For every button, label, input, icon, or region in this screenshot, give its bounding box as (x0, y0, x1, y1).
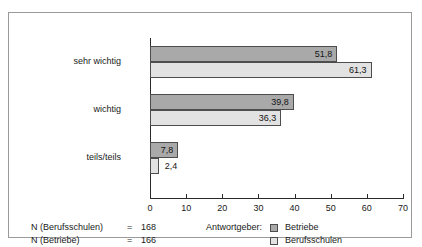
x-axis-tick-label: 40 (290, 203, 300, 213)
legend-title: Antwortgeber: (206, 221, 262, 234)
bar-value-label: 7,8 (161, 146, 178, 155)
note-equals: = (127, 221, 141, 234)
x-axis-tick (258, 194, 259, 199)
x-axis-tick (331, 194, 332, 199)
bar-berufsschulen-0: 61,3 (150, 62, 372, 78)
figure-frame: 010203040506070 sehr wichtigwichtigteils… (8, 12, 412, 238)
legend-item-berufsschulen[interactable]: Berufsschulen (270, 234, 342, 247)
note-value: 168 (141, 221, 156, 234)
note-value: 166 (141, 234, 156, 247)
x-axis-tick-label: 70 (398, 203, 408, 213)
x-axis-tick-label: 30 (253, 203, 263, 213)
x-axis-tick-label: 10 (181, 203, 191, 213)
bar-betriebe-1: 39,8 (150, 94, 294, 110)
bar-berufsschulen-2: 2,4 (150, 158, 159, 174)
sample-size-note-row: N (Berufsschulen)=168 (31, 221, 156, 234)
legend-item-label: Berufsschulen (285, 234, 342, 247)
bar-value-label: 51,8 (315, 50, 337, 59)
legend-items: BetriebeBerufsschulen (270, 221, 342, 247)
bar-betriebe-2: 7,8 (150, 142, 178, 158)
note-key: N (Betriebe) (31, 234, 127, 247)
x-axis-tick (150, 194, 151, 199)
category-label-2: teils/teils (86, 152, 121, 162)
x-axis-tick-label: 50 (326, 203, 336, 213)
x-axis-tick-label: 60 (362, 203, 372, 213)
x-axis-tick (295, 194, 296, 199)
bar-value-label: 2,4 (165, 162, 178, 171)
bar-value-label: 39,8 (271, 98, 293, 107)
x-axis-tick (222, 194, 223, 199)
chart-legend: Antwortgeber: BetriebeBerufsschulen (206, 221, 342, 247)
sample-size-notes: N (Berufsschulen)=168N (Betriebe)=166 (31, 221, 156, 247)
bar-value-label: 61,3 (349, 66, 371, 75)
chart-figure: 010203040506070 sehr wichtigwichtigteils… (0, 0, 422, 247)
note-key: N (Berufsschulen) (31, 221, 127, 234)
note-equals: = (127, 234, 141, 247)
category-label-0: sehr wichtig (73, 56, 121, 66)
legend-swatch-icon (270, 224, 278, 232)
legend-item-label: Betriebe (285, 221, 319, 234)
sample-size-note-row: N (Betriebe)=166 (31, 234, 156, 247)
bar-value-label: 36,3 (259, 114, 281, 123)
x-axis-tick (403, 194, 404, 199)
x-axis-tick (367, 194, 368, 199)
legend-swatch-icon (270, 237, 278, 245)
x-axis-tick-label: 0 (147, 203, 152, 213)
category-label-1: wichtig (93, 104, 121, 114)
legend-item-betriebe[interactable]: Betriebe (270, 221, 342, 234)
bar-berufsschulen-1: 36,3 (150, 110, 281, 126)
x-axis-tick-label: 20 (217, 203, 227, 213)
bar-betriebe-0: 51,8 (150, 46, 337, 62)
x-axis-tick (186, 194, 187, 199)
